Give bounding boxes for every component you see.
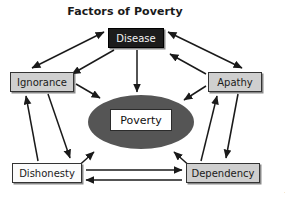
arrow-apathy-dependency — [226, 94, 238, 158]
node-dishonesty[interactable]: Dishonesty — [12, 163, 82, 183]
node-ignorance-label: Ignorance — [17, 77, 67, 88]
node-disease[interactable]: Disease — [108, 28, 164, 48]
arrow-disease-ignorance-inner — [72, 50, 114, 74]
arrow-ignorance-dishonesty — [48, 94, 70, 158]
node-poverty-label: Poverty — [120, 114, 162, 127]
arrow-apathy-poverty — [184, 86, 206, 100]
node-dependency[interactable]: Dependency — [186, 163, 260, 183]
arrow-dependency-apathy — [201, 96, 217, 161]
node-dependency-label: Dependency — [192, 168, 255, 179]
diagram-canvas: Factors of Poverty — [0, 0, 285, 201]
node-dishonesty-label: Dishonesty — [19, 168, 75, 179]
node-disease-label: Disease — [116, 33, 155, 44]
arrow-disease-apathy — [168, 32, 242, 68]
node-poverty[interactable]: Poverty — [110, 109, 172, 131]
arrow-apathy-disease-inner — [170, 54, 206, 74]
copyright-notice: ©2013 Cengage Learning — [284, 182, 285, 201]
node-ignorance[interactable]: Ignorance — [10, 72, 74, 92]
arrow-dishonesty-ignorance — [26, 96, 38, 161]
arrow-ignorance-poverty — [76, 84, 100, 98]
node-apathy-label: Apathy — [217, 77, 253, 88]
node-apathy[interactable]: Apathy — [208, 72, 262, 92]
